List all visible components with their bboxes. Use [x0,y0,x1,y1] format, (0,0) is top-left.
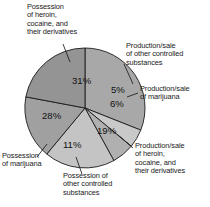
pie-label-possession-heroin: Possession of heroin, cocaine, and their… [27,3,103,37]
pie-label-production-marijuana: Production/sale of marijuana [140,85,210,102]
pie-label-possession-other-controlled: Possession of other controlled substance… [63,172,141,197]
pie-value-28: 28% [42,110,62,121]
pie-value-11: 11% [63,139,82,150]
pie-value-6: 6% [110,98,124,109]
pie-value-19: 19% [97,125,117,136]
pie-chart-figure: 31% 5% 6% 19% 11% 28% Possession of hero… [0,0,210,207]
pie-label-production-other-controlled: Production/sale of other controlled subs… [126,42,210,67]
pie-value-5: 5% [111,84,125,95]
pie-label-production-heroin: Production/sale of heroin, cocaine, and … [135,142,209,176]
pie-label-possession-marijuana: Possession of marijuana [2,152,64,169]
pie-value-31: 31% [72,75,92,86]
